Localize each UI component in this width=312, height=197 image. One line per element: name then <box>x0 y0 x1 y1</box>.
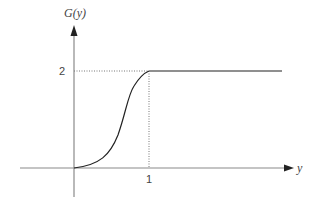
x-tick-label: 1 <box>146 173 152 185</box>
x-axis-arrow-icon <box>284 165 294 172</box>
chart-canvas: G(y) y 2 1 <box>0 0 312 197</box>
x-axis-label: y <box>296 161 303 175</box>
y-axis-label: G(y) <box>64 6 86 20</box>
y-axis-arrow-icon <box>71 25 78 36</box>
cdf-curve <box>74 71 149 168</box>
y-tick-label: 2 <box>59 65 65 77</box>
